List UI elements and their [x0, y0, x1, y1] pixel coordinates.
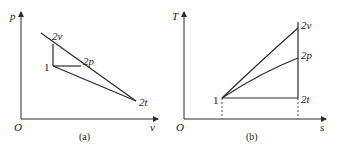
process-curve-1-2p	[222, 58, 298, 98]
t-axis-label: T	[172, 10, 179, 22]
point-label-1: 1	[44, 61, 50, 73]
panel-b-ts-diagram: T s O 2v 2p 2t 1 (b)	[172, 10, 326, 143]
point-label-2p: 2p	[301, 49, 313, 61]
s-axis-label: s	[320, 121, 324, 133]
diagram-canvas: p v O 2v 1 2p 2t (a) T s O 2v 2p 2t 1 (b…	[0, 0, 339, 157]
panel-a-pv-diagram: p v O 2v 1 2p 2t (a)	[9, 10, 158, 143]
panel-caption-a: (a)	[79, 131, 90, 143]
v-axis-label: v	[150, 121, 155, 133]
point-label-2p: 2p	[83, 55, 95, 67]
point-label-2v: 2v	[52, 30, 63, 42]
point-label-2t: 2t	[301, 93, 311, 105]
p-axis-label: p	[9, 10, 16, 22]
panel-caption-b: (b)	[246, 131, 258, 143]
point-label-1: 1	[213, 94, 219, 106]
point-label-2v: 2v	[301, 19, 312, 31]
origin-label: O	[14, 121, 22, 133]
origin-label: O	[176, 121, 184, 133]
point-label-2t: 2t	[139, 96, 149, 108]
